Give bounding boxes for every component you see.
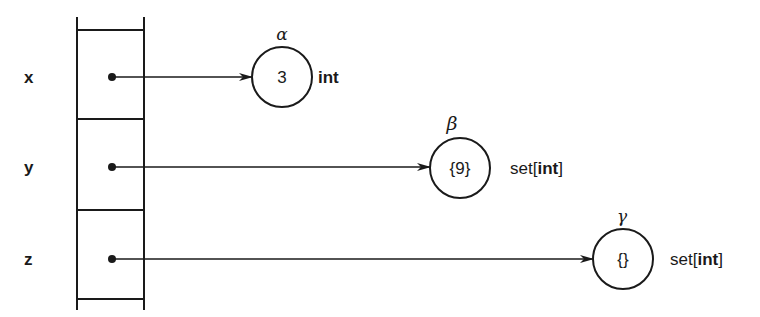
variable-label-x: x xyxy=(24,68,34,87)
object-value-alpha: 3 xyxy=(277,68,286,87)
reference-diagram: x y z α 3 int β {9} set[int] γ {} set[in… xyxy=(0,0,760,317)
type-prefix-gamma: set[ xyxy=(670,250,698,269)
greek-label-beta: β xyxy=(446,112,458,134)
type-prefix-beta: set[ xyxy=(510,159,538,178)
type-bold-beta: int xyxy=(537,159,558,178)
type-bold-alpha: int xyxy=(318,68,339,87)
type-label-alpha: int xyxy=(318,68,339,87)
variable-label-y: y xyxy=(24,158,34,177)
type-bold-gamma: int xyxy=(697,250,718,269)
variable-label-z: z xyxy=(24,250,33,269)
greek-label-gamma: γ xyxy=(617,206,628,226)
type-suffix-gamma: ] xyxy=(718,250,723,269)
object-beta: β {9} set[int] xyxy=(430,112,563,198)
type-suffix-beta: ] xyxy=(558,159,563,178)
object-gamma: γ {} set[int] xyxy=(593,206,723,289)
type-label-gamma: set[int] xyxy=(670,250,723,269)
object-value-gamma: {} xyxy=(617,250,629,269)
type-label-beta: set[int] xyxy=(510,159,563,178)
object-value-beta: {9} xyxy=(450,159,471,178)
object-alpha: α 3 int xyxy=(252,24,339,107)
greek-label-alpha: α xyxy=(276,24,288,44)
